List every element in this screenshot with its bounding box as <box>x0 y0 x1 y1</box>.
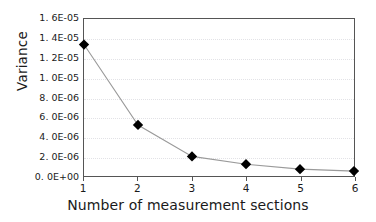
data-point-marker <box>187 151 197 161</box>
y-axis-tick-label: 1. 2E-05 <box>33 53 79 63</box>
x-axis-tick-label: 6 <box>342 181 368 195</box>
y-axis-tick-label: 6. 0E-06 <box>33 112 79 122</box>
y-axis-tick-label: 1. 6E-05 <box>33 13 79 23</box>
variance-line-chart: Variance 1. 6E-051. 4E-051. 2E-051. 0E-0… <box>0 0 376 222</box>
y-axis-tick-label: 1. 4E-05 <box>33 33 79 43</box>
data-point-marker <box>295 164 305 174</box>
x-axis-tick-label: 5 <box>288 181 314 195</box>
y-axis-tick-label: 2. 0E-06 <box>33 152 79 162</box>
x-axis-tick-labels: 123456 <box>83 181 355 197</box>
x-axis-tick-label: 3 <box>179 181 205 195</box>
y-axis-tick-label: 1. 0E-05 <box>33 73 79 83</box>
plot-area <box>83 18 355 177</box>
x-axis-title: Number of measurement sections <box>0 197 376 213</box>
x-axis-tick-label: 2 <box>124 181 150 195</box>
y-axis-tick-label: 8. 0E-06 <box>33 93 79 103</box>
y-axis-title: Variance <box>13 11 31 111</box>
x-axis-tick-label: 1 <box>70 181 96 195</box>
y-axis-tick-label: 4. 0E-06 <box>33 132 79 142</box>
data-series-layer <box>84 19 354 176</box>
data-point-marker <box>133 120 143 130</box>
x-axis-tick-label: 4 <box>233 181 259 195</box>
series-line <box>84 45 354 172</box>
data-point-marker <box>79 39 89 49</box>
data-point-marker <box>349 166 359 176</box>
data-point-marker <box>241 159 251 169</box>
